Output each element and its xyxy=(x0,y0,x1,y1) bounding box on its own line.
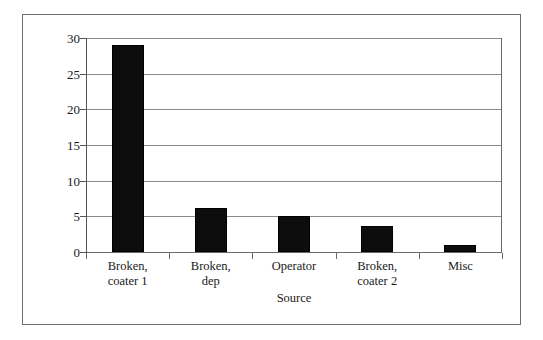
y-axis-tick-labels: 051015202530 xyxy=(40,0,80,340)
x-category-label-line: Broken, xyxy=(86,259,169,274)
x-tick-mark xyxy=(502,253,503,259)
gridline-10 xyxy=(86,181,502,182)
bar xyxy=(444,245,476,252)
x-category-label-line: Broken, xyxy=(169,259,252,274)
x-category-label: Misc xyxy=(419,259,502,274)
y-tick-label: 10 xyxy=(46,175,80,188)
gridline-0 xyxy=(86,252,502,253)
plot-right-border xyxy=(501,38,502,253)
x-category-label-line: Operator xyxy=(252,259,335,274)
y-tick-label: 5 xyxy=(46,210,80,223)
plot-area xyxy=(86,38,502,252)
gridline-30 xyxy=(86,38,502,39)
y-tick-label: 20 xyxy=(46,103,80,116)
y-tick-label: 0 xyxy=(46,246,80,259)
gridline-25 xyxy=(86,74,502,75)
x-category-label-line: coater 1 xyxy=(86,274,169,289)
x-axis-title: Source xyxy=(86,291,502,306)
bar xyxy=(361,226,393,252)
gridline-20 xyxy=(86,109,502,110)
x-category-label: Broken,coater 1 xyxy=(86,259,169,289)
bar xyxy=(112,45,144,252)
x-category-label-line: coater 2 xyxy=(336,274,419,289)
x-category-label: Operator xyxy=(252,259,335,274)
x-category-label: Broken,coater 2 xyxy=(336,259,419,289)
y-tick-label: 25 xyxy=(46,68,80,81)
bar-chart-figure: 051015202530 Broken,coater 1Broken,depOp… xyxy=(0,0,543,340)
x-category-label-line: Misc xyxy=(419,259,502,274)
bar xyxy=(195,208,227,252)
x-category-label: Broken,dep xyxy=(169,259,252,289)
x-category-label-line: Broken, xyxy=(336,259,419,274)
bar xyxy=(278,216,310,252)
gridline-15 xyxy=(86,145,502,146)
y-tick-label: 30 xyxy=(46,32,80,45)
y-tick-label: 15 xyxy=(46,139,80,152)
x-category-label-line: dep xyxy=(169,274,252,289)
y-axis-line xyxy=(86,38,87,253)
